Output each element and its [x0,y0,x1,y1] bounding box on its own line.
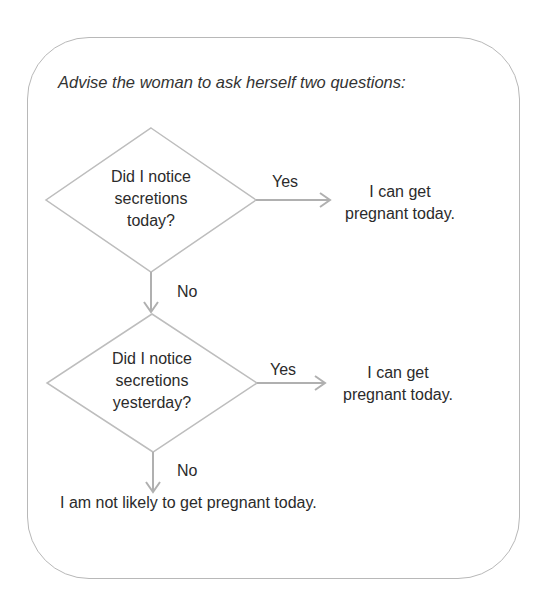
yes-outcome-2: I can get pregnant today. [313,362,483,406]
question-line: Did I notice [76,166,226,188]
question-line: Did I notice [77,348,227,370]
question-line: secretions [77,370,227,392]
yes-label-2: Yes [270,359,296,381]
no-arrow-2 [146,452,160,492]
no-label-2: No [177,460,197,482]
yes-label-1: Yes [272,171,298,193]
no-label-1: No [177,281,197,303]
diagram-title: Advise the woman to ask herself two ques… [58,71,406,93]
outcome-line: pregnant today. [313,384,483,406]
question-line: today? [76,210,226,232]
decision-question-1: Did I notice secretions today? [76,166,226,232]
no-arrow-1 [144,272,158,312]
decision-question-2: Did I notice secretions yesterday? [77,348,227,414]
outcome-line: I can get [313,362,483,384]
yes-outcome-1: I can get pregnant today. [315,181,485,225]
question-line: secretions [76,188,226,210]
final-outcome: I am not likely to get pregnant today. [60,492,317,514]
question-line: yesterday? [77,392,227,414]
outcome-line: I can get [315,181,485,203]
outcome-line: pregnant today. [315,203,485,225]
